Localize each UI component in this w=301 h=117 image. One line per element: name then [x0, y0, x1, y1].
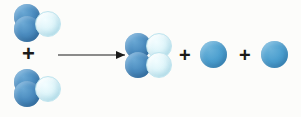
plus-sign-products-second: +: [239, 45, 251, 65]
reaction-arrow: [58, 50, 125, 59]
atom-light-blue: [35, 11, 61, 37]
atom-medium-blue: [200, 41, 227, 68]
plus-sign-reactants: +: [22, 43, 35, 65]
arrow-head: [116, 51, 125, 59]
arrow-shaft: [58, 54, 125, 55]
atom-light-blue: [146, 52, 172, 78]
plus-sign-products-first: +: [179, 45, 191, 65]
atom-medium-blue: [261, 41, 288, 68]
atom-light-blue: [35, 76, 61, 102]
reaction-diagram-canvas: + + +: [0, 0, 301, 117]
